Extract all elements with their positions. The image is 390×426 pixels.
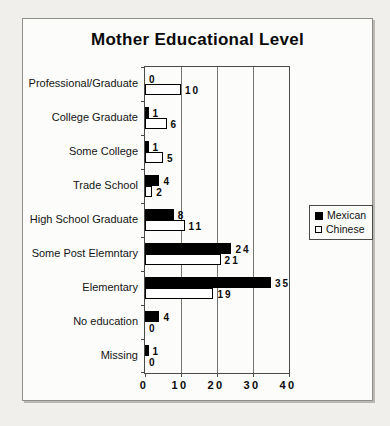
legend-item-chinese: Chinese — [315, 224, 368, 235]
bar-value-label: 0 — [149, 356, 157, 367]
bar-value-label: 2 — [156, 186, 164, 197]
bar-mexican — [145, 141, 149, 152]
bar-mexican — [145, 345, 149, 356]
bar-chinese — [145, 152, 163, 163]
x-tick-label: 10 — [171, 379, 188, 391]
x-axis-tick — [181, 373, 182, 377]
legend-label: Chinese — [326, 224, 365, 235]
bar-value-label: 0 — [149, 73, 157, 84]
x-tick-label: 0 — [140, 379, 149, 391]
y-axis-tick — [141, 339, 145, 340]
bar-mexican — [145, 277, 271, 288]
category-label: Professional/Graduate — [23, 77, 142, 89]
y-axis-tick — [141, 67, 145, 68]
bar-value-label: 8 — [178, 209, 186, 220]
bar-value-label: 19 — [217, 288, 232, 299]
gridline — [217, 67, 218, 373]
y-axis-tick — [141, 305, 145, 306]
bar-mexican — [145, 311, 159, 322]
x-axis-tick — [289, 373, 290, 377]
bar-value-label: 11 — [189, 220, 204, 231]
y-axis-tick — [141, 237, 145, 238]
bar-value-label: 1 — [153, 141, 161, 152]
bar-value-label: 35 — [275, 277, 290, 288]
category-label: No education — [23, 315, 142, 327]
plot-area: 010161542811242135194010 — [144, 66, 290, 374]
y-axis-tick — [141, 372, 145, 373]
category-label: Missing — [23, 349, 142, 361]
bar-chinese — [145, 84, 181, 95]
gridline — [253, 67, 254, 373]
chart-frame: Mother Educational Level Professional/Gr… — [22, 18, 373, 401]
bar-chinese — [145, 254, 221, 265]
bar-value-label: 1 — [153, 107, 161, 118]
x-tick-label: 30 — [243, 379, 260, 391]
bar-value-label: 4 — [163, 175, 171, 186]
y-axis-tick — [141, 169, 145, 170]
category-label: Some Post Elemntary — [23, 247, 142, 259]
category-label: Elementary — [23, 281, 142, 293]
category-axis-labels: Professional/GraduateCollege GraduateSom… — [23, 66, 142, 372]
chart-title: Mother Educational Level — [23, 30, 372, 50]
bar-chinese — [145, 220, 185, 231]
bar-chinese — [145, 288, 213, 299]
legend-item-mexican: Mexican — [315, 210, 368, 221]
bar-value-label: 24 — [235, 243, 250, 254]
chinese-swatch-icon — [315, 226, 322, 233]
x-axis-tick — [217, 373, 218, 377]
bar-chinese — [145, 118, 167, 129]
bar-mexican — [145, 175, 159, 186]
bar-value-label: 0 — [149, 322, 157, 333]
bar-value-label: 5 — [167, 152, 175, 163]
bar-mexican — [145, 209, 174, 220]
bar-value-label: 21 — [225, 254, 240, 265]
bar-mexican — [145, 107, 149, 118]
bar-value-label: 6 — [171, 118, 179, 129]
y-axis-tick — [141, 203, 145, 204]
x-axis-tick — [253, 373, 254, 377]
x-axis-tick — [145, 373, 146, 377]
mexican-swatch-icon — [315, 212, 323, 220]
bar-chinese — [145, 186, 152, 197]
category-label: Some College — [23, 145, 142, 157]
legend-label: Mexican — [327, 210, 366, 221]
y-axis-tick — [141, 135, 145, 136]
x-axis-tick-labels: 010203040 — [144, 379, 290, 393]
bar-value-label: 1 — [153, 345, 161, 356]
y-axis-tick — [141, 101, 145, 102]
x-tick-label: 20 — [207, 379, 224, 391]
x-tick-label: 40 — [279, 379, 296, 391]
y-axis-tick — [141, 271, 145, 272]
category-label: College Graduate — [23, 111, 142, 123]
bar-mexican — [145, 243, 231, 254]
category-label: Trade School — [23, 179, 142, 191]
bar-value-label: 10 — [185, 84, 200, 95]
bar-value-label: 4 — [163, 311, 171, 322]
legend: MexicanChinese — [309, 205, 373, 240]
category-label: High School Graduate — [23, 213, 142, 225]
